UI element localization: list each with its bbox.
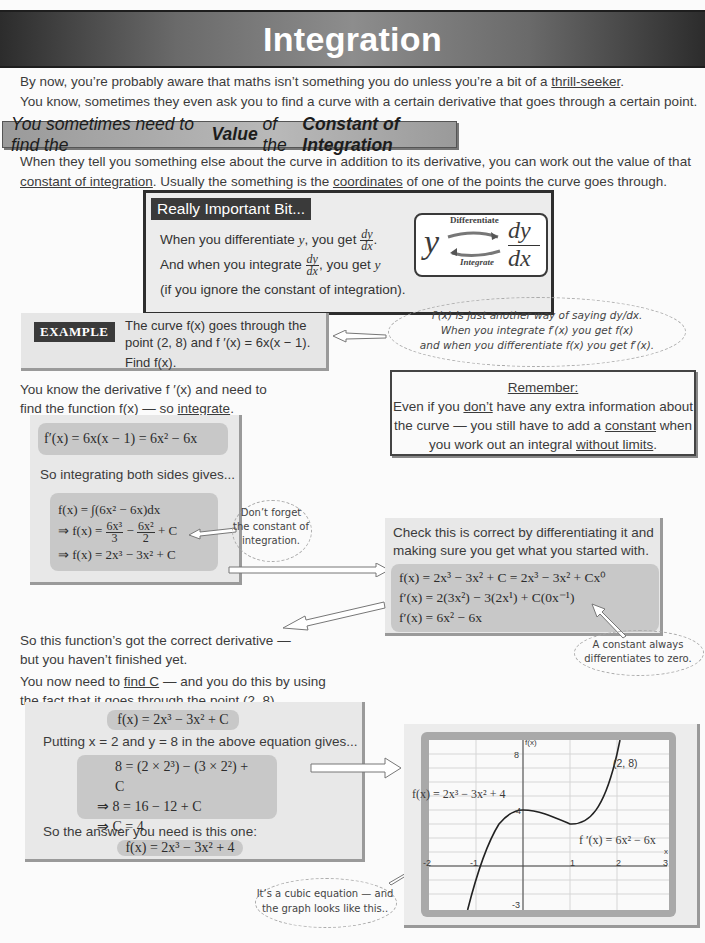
frac-den: dx <box>306 266 319 277</box>
intro-line1: By now, you’re probably aware that maths… <box>20 74 551 89</box>
y-tick: 4 <box>516 806 521 816</box>
remember-l1: Even if you <box>393 399 464 414</box>
arrow-left-icon <box>332 330 388 344</box>
note-dydx-line1: f′(x) is just another way of saying dy/d… <box>392 308 682 323</box>
find-c-term: find C <box>124 674 159 689</box>
differentiate-integrate-diagram: y Differentiate Integrate dy dx <box>414 213 548 277</box>
substitution-steps: 8 = (2 × 2³) − (3 × 2²) + C ⇒ 8 = 16 − 1… <box>77 755 277 819</box>
y-tick: 8 <box>514 750 519 760</box>
note-dydx-line3: and when you differentiate f(x) you get … <box>392 338 682 353</box>
remember-l3-post: . <box>653 437 657 452</box>
y-axis-label: f(x) <box>525 738 537 747</box>
example-line2: point (2, 8) and f ′(x) = 6x(x − 1). <box>125 334 310 351</box>
find-c-line1: You now need to <box>20 674 124 689</box>
para2-mid: . Usually the something is the <box>153 174 333 189</box>
know-derivative-text: You know the derivative f ′(x) and need … <box>20 380 267 418</box>
x-tick: -2 <box>423 858 431 868</box>
substitution-text: Putting x = 2 and y = 8 in the above equ… <box>43 734 357 749</box>
important-bit-label: Really Important Bit... <box>151 198 311 220</box>
check-eq1: f(x) = 2x³ − 3x² + C = 2x³ − 3x² + Cx⁰ <box>399 568 651 588</box>
find-c-panel: f(x) = 2x³ − 3x² + C Putting x = 2 and y… <box>25 702 365 862</box>
arrow-down-left-icon <box>282 600 386 632</box>
remember-l2: the curve — you still have to add a <box>394 418 605 433</box>
x-tick: 3 <box>663 858 668 868</box>
var-y: y <box>374 257 380 272</box>
integrated-result: ⇒ f(x) = 2x³ − 3x² + C <box>58 544 210 565</box>
correct-derivative-text: So this function’s got the correct deriv… <box>20 631 291 669</box>
note-cubic: It’s a cubic equation — and the graph lo… <box>252 886 398 916</box>
note-dydx-line2: When you integrate f′(x) you get f(x) <box>392 323 682 338</box>
note-zero-line1: A constant always <box>578 638 698 652</box>
derivative-label: f ′(x) = 6x² − 6x <box>579 833 656 848</box>
arrow-right-icon <box>228 563 390 577</box>
important-bit-box: Really Important Bit... When you differe… <box>143 190 554 315</box>
note-zero: A constant always differentiates to zero… <box>578 638 698 666</box>
general-solution: f(x) = 2x³ − 3x² + C <box>107 710 239 730</box>
example-text: The curve f(x) goes through the point (2… <box>125 317 310 371</box>
curve-label: f(x) = 2x³ − 3x² + 4 <box>412 787 506 802</box>
y-tick: -3 <box>512 900 520 910</box>
check-line1: Check this is correct by differentiating… <box>393 524 654 542</box>
fraction-1: 6x³3 <box>106 521 124 544</box>
example-tag: EXAMPLE <box>34 322 115 342</box>
fraction-2: 6x²2 <box>137 521 155 544</box>
intro-line1-end: . <box>620 74 624 89</box>
section-heading: You sometimes need to find the Value of … <box>2 121 457 148</box>
correct-derivative-line2: but you haven’t finished yet. <box>20 650 291 669</box>
rib-line1: When you differentiate <box>160 232 299 247</box>
explanation-paragraph: When they tell you something else about … <box>20 152 700 192</box>
step2-pre: ⇒ f(x) = <box>58 523 106 538</box>
dy-dx-fraction: dydx <box>306 254 319 277</box>
without-limits-term: without limits <box>576 437 653 452</box>
example-line3: Find f(x). <box>125 354 310 371</box>
constant-of-integration-term: constant of integration <box>20 174 153 189</box>
integrate-term: integrate <box>178 401 231 416</box>
note-dydx: f′(x) is just another way of saying dy/d… <box>392 308 682 353</box>
differentiate-label: Differentiate <box>450 215 499 225</box>
final-answer: f(x) = 2x³ − 3x² + 4 <box>117 840 243 856</box>
note-zero-line2: differentiates to zero. <box>578 652 698 666</box>
arrow-right-icon <box>310 757 402 779</box>
example-line1: The curve f(x) goes through the <box>125 317 310 334</box>
dy-dx-fraction: dydx <box>360 229 373 252</box>
remember-title: Remember: <box>508 380 579 395</box>
substitution-eq: 8 = (2 × 2³) − (3 × 2²) + C <box>97 757 257 797</box>
para2-line1: When they tell you something else about … <box>20 152 700 172</box>
remember-l2-post: when <box>656 418 692 433</box>
know-derivative-line1: You know the derivative f ′(x) and need … <box>20 380 267 399</box>
constant-term: constant <box>605 418 656 433</box>
page-title: Integration <box>263 20 442 59</box>
para2-end: of one of the points the curve goes thro… <box>403 174 667 189</box>
check-line2: making sure you get what you started wit… <box>393 542 654 560</box>
section-text: You sometimes need to find the <box>11 114 207 156</box>
diagram-y: y <box>424 223 439 261</box>
note-constant-line2: the constant of <box>228 520 314 534</box>
know-derivative-end: . <box>230 401 234 416</box>
note-constant-line1: Don’t forget <box>228 506 314 520</box>
step2-post: + C <box>155 523 178 538</box>
note-cubic-line1: It’s a cubic equation — and <box>252 886 398 901</box>
coordinates-term: coordinates <box>333 174 403 189</box>
integral-step: f(x) = ∫(6x² − 6x)dx <box>58 499 210 520</box>
remember-box: Remember: Even if you don’t have any ext… <box>390 370 696 456</box>
intro-line2: You know, sometimes they even ask you to… <box>20 92 700 112</box>
rib-line2-post: , you get <box>319 257 375 272</box>
x-tick: -1 <box>470 858 478 868</box>
know-derivative-line2: find the function f(x) — so <box>20 401 178 416</box>
integrating-text: So integrating both sides gives... <box>40 467 235 482</box>
diagram-dy: dy <box>508 217 531 244</box>
remember-l3: you work out an integral <box>429 437 576 452</box>
find-c-line1-post: — and you do this by using <box>159 674 326 689</box>
derivative-equation: f′(x) = 6x(x − 1) = 6x² − 6x <box>38 423 228 455</box>
example-box: EXAMPLE The curve f(x) goes through the … <box>21 313 329 371</box>
f2-den: 2 <box>137 533 155 544</box>
f1-den: 3 <box>106 533 124 544</box>
intro-text: By now, you’re probably aware that maths… <box>20 72 700 112</box>
section-bold-value: Value <box>212 124 258 145</box>
x-tick: 1 <box>570 858 575 868</box>
note-constant: Don’t forget the constant of integration… <box>228 506 314 548</box>
frac-den: dx <box>360 241 373 252</box>
section-bold-constant: Constant of Integration <box>302 114 456 156</box>
x-tick: 2 <box>616 858 621 868</box>
x-axis-label: x <box>664 847 668 856</box>
